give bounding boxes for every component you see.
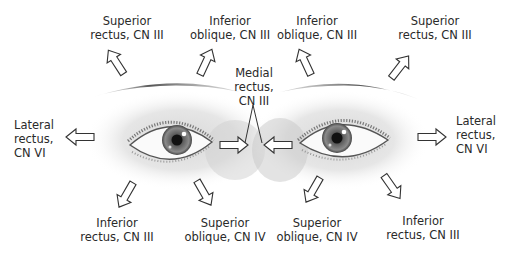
label-line: Superior [262,216,372,230]
label-left-superior-rectus: Superior rectus, CN III [380,14,490,42]
arrow-left-superior-rectus [385,51,415,83]
label-line: CN VI [14,146,54,160]
label-left-superior-oblique: Superior oblique, CN IV [262,216,372,244]
label-line: oblique, CN III [262,28,372,42]
label-line: rectus, CN III [62,230,172,244]
label-line: rectus, [456,128,496,142]
label-left-inferior-oblique: Inferior oblique, CN III [262,14,372,42]
label-line: Inferior [368,214,478,228]
label-line: rectus, [14,132,54,146]
eye-muscle-diagram: Superior rectus, CN III Inferior oblique… [0,0,510,255]
label-left-lateral-rectus: Lateral rectus, CN VI [456,114,496,156]
arrow-right-inferior-oblique [193,46,219,78]
label-line: oblique, CN IV [262,230,372,244]
label-line: Superior [380,14,490,28]
label-left-inferior-rectus: Inferior rectus, CN III [368,214,478,242]
label-line: Inferior [262,14,372,28]
label-line: rectus, CN III [72,28,182,42]
label-line: rectus, CN III [380,28,490,42]
label-right-lateral-rectus: Lateral rectus, CN VI [14,118,54,160]
label-right-superior-rectus: Superior rectus, CN III [72,14,182,42]
arrow-left-inferior-oblique [292,46,318,78]
label-line: rectus, CN III [368,228,478,242]
label-line: rectus, [222,80,286,94]
label-line: Medial [222,66,286,80]
label-line: Lateral [456,114,496,128]
label-line: Lateral [14,118,54,132]
label-line: CN VI [456,142,496,156]
label-line: Superior [72,14,182,28]
label-medial-rectus: Medial rectus, CN III [222,66,286,108]
label-line: Inferior [62,216,172,230]
label-right-inferior-rectus: Inferior rectus, CN III [62,216,172,244]
arrow-right-superior-rectus [102,46,131,78]
label-line: CN III [222,94,286,108]
